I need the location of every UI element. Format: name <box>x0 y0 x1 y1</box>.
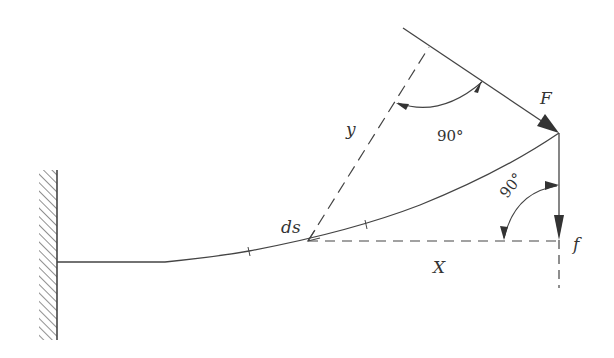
label-y: y <box>345 119 356 139</box>
force-F-arrow <box>403 28 559 133</box>
label-ds: ds <box>281 217 301 237</box>
label-angle-right: 90° <box>496 169 527 201</box>
lever-arm-y <box>308 47 429 241</box>
force-f-arrow <box>554 133 564 288</box>
label-F: F <box>539 88 553 108</box>
label-f: f <box>571 234 582 254</box>
label-X: X <box>431 257 446 277</box>
angle-arc-top <box>396 80 482 110</box>
label-angle-top: 90° <box>437 127 464 145</box>
deflected-beam <box>57 133 559 262</box>
fixed-wall <box>39 170 57 340</box>
beam-tick-2 <box>365 220 367 229</box>
beam-diagram: F f ds y X 90° 90° <box>0 0 614 358</box>
